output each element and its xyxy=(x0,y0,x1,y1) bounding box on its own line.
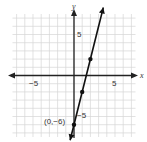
x-tick-label-neg5: −5 xyxy=(29,79,39,88)
x-axis-label: x xyxy=(139,71,144,80)
data-point xyxy=(80,90,84,94)
x-axis-right-arrow-icon xyxy=(131,73,138,79)
coordinate-plane: x y −5 5 5 −5 (0,−6) xyxy=(0,0,147,142)
x-axis-left-arrow-icon xyxy=(8,73,15,79)
axes xyxy=(8,9,138,138)
y-axis-label: y xyxy=(71,2,76,11)
data-point xyxy=(72,123,76,127)
y-tick-label-5: 5 xyxy=(77,30,82,39)
line-arrow-icon xyxy=(99,7,105,14)
x-tick-label-5: 5 xyxy=(112,79,117,88)
point-annotation-label: (0,−6) xyxy=(44,117,65,126)
y-tick-label-neg5: −5 xyxy=(77,111,87,120)
data-point xyxy=(88,57,92,61)
